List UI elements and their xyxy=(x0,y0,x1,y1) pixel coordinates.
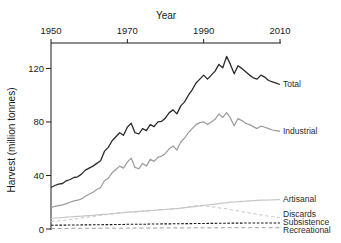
x-tick-label: 1950 xyxy=(40,25,61,36)
y-tick-label: 40 xyxy=(33,170,44,181)
series-label-recreational: Recreational xyxy=(283,225,331,235)
series-line-industrial xyxy=(51,113,280,208)
x-tick-label: 1970 xyxy=(117,25,138,36)
x-tick-label: 1990 xyxy=(193,25,214,36)
x-tick-label: 2010 xyxy=(269,25,290,36)
y-tick-label: 120 xyxy=(28,63,44,74)
y-tick-label: 80 xyxy=(33,116,44,127)
y-tick-label: 0 xyxy=(39,224,44,235)
series-label-artisanal: Artisanal xyxy=(283,194,316,204)
series-line-total xyxy=(51,56,280,187)
series-line-artisanal xyxy=(51,200,280,219)
harvest-by-sector-chart: Year Harvest (million tonnes) 1950197019… xyxy=(0,0,341,243)
series-line-recreational xyxy=(51,228,280,229)
series-label-total: Total xyxy=(283,79,301,89)
series-line-discards xyxy=(51,206,280,222)
series-label-industrial: Industrial xyxy=(283,126,318,136)
series-line-subsistence xyxy=(51,223,280,225)
chart-svg: 195019701990201004080120TotalIndustrialA… xyxy=(0,0,341,243)
